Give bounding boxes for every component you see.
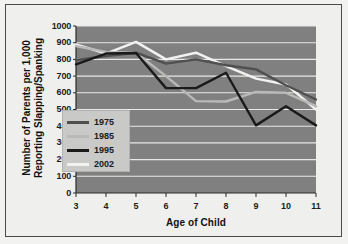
x-tick-label: 10 (274, 202, 298, 211)
legend-label: 2002 (94, 159, 114, 169)
legend-color-swatch (67, 149, 89, 152)
legend-color-swatch (67, 163, 89, 166)
y-tick-label: 800 (30, 55, 71, 64)
legend-item: 1995 (67, 143, 129, 157)
y-tick-label: 0 (30, 189, 71, 198)
x-tick-label: 4 (94, 202, 118, 211)
legend-label: 1995 (94, 145, 114, 155)
x-tick-label: 9 (244, 202, 268, 211)
legend-label: 1985 (94, 131, 114, 141)
x-axis-title: Age of Child (76, 217, 316, 228)
x-tick-label: 8 (214, 202, 238, 211)
x-tick-label: 6 (154, 202, 178, 211)
legend-item: 2002 (67, 157, 129, 171)
y-tick-label: 900 (30, 38, 71, 47)
x-tick-label: 3 (64, 202, 88, 211)
y-tick-label: 100 (30, 172, 71, 181)
legend-color-swatch (67, 121, 89, 124)
legend-item: 1985 (67, 129, 129, 143)
figure-root: Number of Parents per 1,000 Reporting Sl… (0, 0, 348, 244)
legend-color-swatch (67, 135, 89, 138)
y-tick-label: 1000 (30, 22, 71, 31)
legend-item: 1975 (67, 115, 129, 129)
chart-legend: 1975198519952002 (62, 110, 130, 172)
legend-label: 1975 (94, 117, 114, 127)
y-tick-label: 700 (30, 72, 71, 81)
x-tick-label: 5 (124, 202, 148, 211)
y-tick-label: 600 (30, 88, 71, 97)
x-tick-label: 7 (184, 202, 208, 211)
x-tick-label: 11 (304, 202, 328, 211)
